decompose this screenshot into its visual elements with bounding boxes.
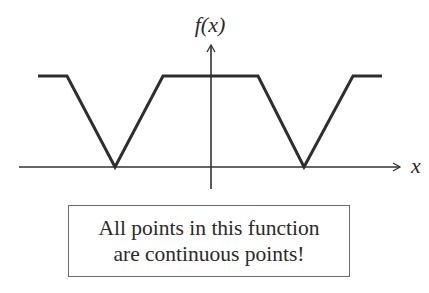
caption-box: All points in this function are continuo… — [68, 205, 350, 277]
caption-line-2: are continuous points! — [113, 241, 304, 267]
y-axis-label: f(x) — [195, 12, 226, 37]
x-axis-label: x — [410, 153, 421, 178]
caption-line-1: All points in this function — [99, 215, 320, 241]
function-curve — [38, 76, 382, 167]
